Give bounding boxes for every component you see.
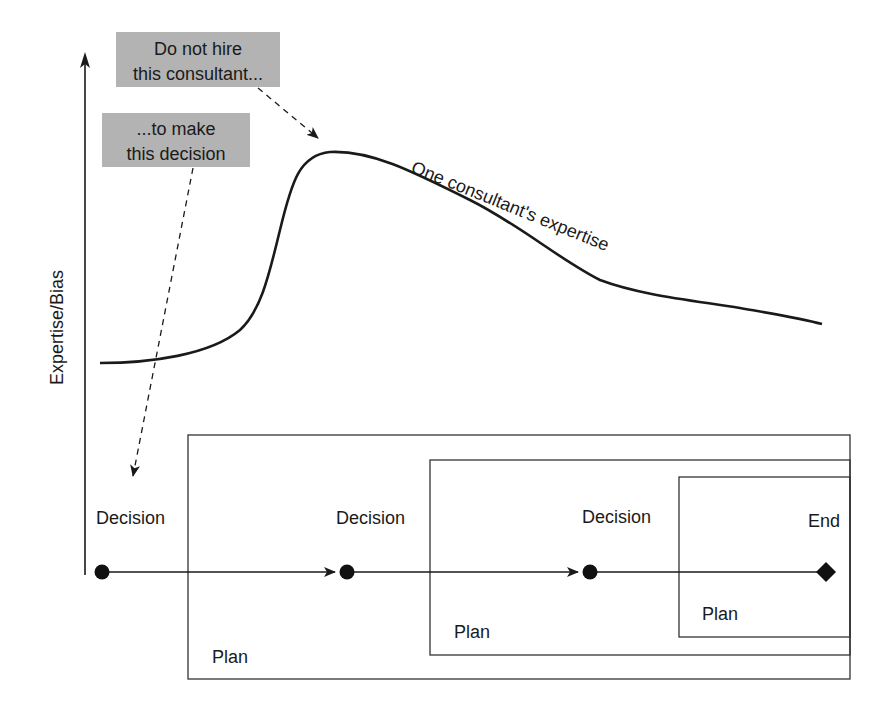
callout-line: this consultant... [133, 64, 263, 84]
plan-box-outer [188, 435, 850, 679]
plan-box-middle [430, 460, 850, 655]
decision-label: Decision [96, 508, 165, 528]
decision-label: Decision [336, 508, 405, 528]
plan-label-middle: Plan [454, 622, 490, 642]
callout-line: this decision [126, 144, 225, 164]
end-diamond-icon [816, 562, 836, 582]
callout-decision: ...to make this decision [102, 113, 250, 167]
y-axis-label: Expertise/Bias [47, 270, 67, 385]
callout-hire: Do not hire this consultant... [116, 32, 280, 87]
callout-line: ...to make [136, 119, 215, 139]
plan-label-inner: Plan [702, 604, 738, 624]
dashed-pointer-to-peak [258, 88, 318, 138]
decision-expertise-diagram: Expertise/Bias One consultant's expertis… [0, 0, 895, 720]
decision-node-icon [583, 565, 598, 580]
decision-node-icon [340, 565, 355, 580]
dashed-pointer-to-decision [133, 168, 193, 476]
plan-label-outer: Plan [212, 647, 248, 667]
end-label: End [808, 511, 840, 531]
decision-label: Decision [582, 507, 651, 527]
callout-line: Do not hire [154, 39, 242, 59]
curve-label: One consultant's expertise [409, 157, 613, 255]
y-axis [80, 52, 90, 575]
decision-node-icon [95, 565, 110, 580]
